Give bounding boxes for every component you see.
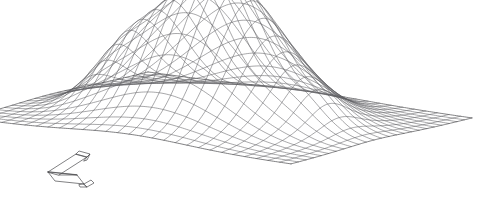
mesh-line xyxy=(35,0,359,144)
mesh-line xyxy=(36,44,217,126)
triad-axis xyxy=(48,154,87,175)
mesh-line xyxy=(125,77,449,123)
mesh-line xyxy=(279,116,460,162)
mesh-line xyxy=(58,0,382,138)
mesh-line xyxy=(42,0,366,142)
mesh-line xyxy=(103,53,427,129)
mesh-line xyxy=(110,66,434,127)
mesh-wireframe-group xyxy=(0,0,472,164)
mesh-line xyxy=(50,0,374,140)
mesh-line xyxy=(0,106,314,158)
mesh-line xyxy=(0,74,160,120)
triad-axis xyxy=(84,154,90,161)
mesh-line xyxy=(0,114,306,160)
mesh-line xyxy=(152,0,333,138)
mesh-line xyxy=(148,72,472,118)
triad-axis xyxy=(79,184,87,187)
mesh-line xyxy=(71,10,252,129)
mesh-line xyxy=(83,0,264,130)
mesh-line xyxy=(65,0,389,136)
mesh-line xyxy=(0,118,291,164)
surface-wireframe-plot xyxy=(0,0,496,215)
plot-viewport xyxy=(0,0,496,215)
axis-triad-glyph xyxy=(48,151,94,187)
